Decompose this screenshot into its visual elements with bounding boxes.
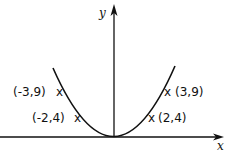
x-marker-icon: x xyxy=(74,111,81,125)
point-marker-neg2-4: (-2,4) x xyxy=(32,111,81,125)
x-axis-label: x xyxy=(217,139,224,153)
point-marker-2-4: x (2,4) xyxy=(148,111,186,125)
y-axis-label: y xyxy=(98,6,106,20)
x-marker-icon: x xyxy=(164,85,171,99)
x-marker-icon: x xyxy=(56,85,63,99)
point-marker-3-9: x (3,9) xyxy=(164,85,203,99)
x-marker-icon: x xyxy=(148,111,155,125)
y-axis xyxy=(111,4,118,137)
point-label: (2,4) xyxy=(158,111,186,125)
parabola-diagram: x y (-3,9) x (-2,4) x x (2,4) x (3,9) xyxy=(0,0,229,162)
point-marker-neg3-9: (-3,9) x xyxy=(13,85,63,99)
point-label: (3,9) xyxy=(175,85,203,99)
point-label: (-3,9) xyxy=(13,85,46,99)
point-label: (-2,4) xyxy=(32,111,65,125)
